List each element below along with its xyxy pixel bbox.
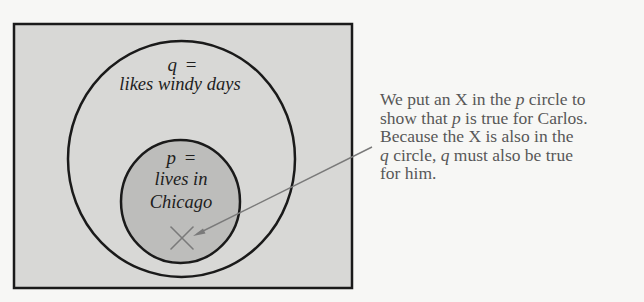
- caption-line-2: show that p is true for Carlos.: [380, 109, 642, 128]
- inner-circle-description-line2: Chicago: [150, 192, 213, 212]
- caption-text: circle,: [389, 145, 441, 165]
- q-equals: =: [186, 54, 197, 75]
- caption-text: is true for Carlos.: [461, 108, 588, 128]
- caption-line-4: q circle, q must also be true: [380, 146, 642, 165]
- caption-variable-p: p: [452, 108, 461, 128]
- caption-text: circle to: [524, 89, 585, 109]
- caption-text: must also be true: [449, 145, 572, 165]
- caption-text: show that: [380, 108, 452, 128]
- caption-line-5: for him.: [380, 164, 642, 183]
- p-variable: p: [165, 147, 177, 168]
- q-variable: q: [168, 54, 178, 75]
- inner-circle-description-line1: lives in: [155, 169, 208, 189]
- outer-circle-description: likes windy days: [119, 74, 240, 94]
- annotation-caption: We put an X in the p circle to show that…: [380, 90, 642, 183]
- caption-line-3: Because the X is also in the: [380, 127, 642, 146]
- caption-line-1: We put an X in the p circle to: [380, 90, 642, 109]
- caption-text: We put an X in the: [380, 89, 516, 109]
- inner-circle-variable-label: p =: [165, 147, 196, 168]
- caption-variable-q: q: [380, 145, 389, 165]
- p-equals: =: [185, 147, 196, 168]
